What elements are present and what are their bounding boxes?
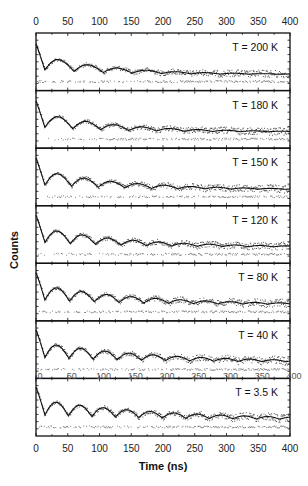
ghost-tick-label: 250 xyxy=(191,371,206,381)
panel-80k: T = 80 K xyxy=(36,263,291,321)
panel-label: T = 40 K xyxy=(238,329,278,341)
bottom-tick-label: 150 xyxy=(123,443,140,454)
panel-label: T = 120 K xyxy=(232,214,278,226)
panel-label: T = 3.5 K xyxy=(235,386,278,398)
ghost-tick-label: 150 xyxy=(128,371,143,381)
panels: T = 200 KT = 180 KT = 150 KT = 120 KT = … xyxy=(36,33,302,436)
panel-40k: T = 40 K xyxy=(36,321,291,379)
bottom-tick-label: 350 xyxy=(250,443,267,454)
residual-points xyxy=(39,426,291,428)
residual-points xyxy=(37,81,290,83)
bottom-tick-label: 300 xyxy=(218,443,235,454)
residual-points xyxy=(37,368,290,370)
top-tick-label: 350 xyxy=(250,16,267,27)
ghost-tick-label: 350 xyxy=(255,371,270,381)
bottom-tick-label: 400 xyxy=(282,443,299,454)
bottom-tick-label: 100 xyxy=(91,443,108,454)
panel-label: T = 80 K xyxy=(238,271,278,283)
ghost-tick-label: 100 xyxy=(96,371,111,381)
ghost-tick-label: 300 xyxy=(223,371,238,381)
x-axis-title: Time (ns) xyxy=(139,460,188,472)
top-tick-label: 300 xyxy=(218,16,235,27)
top-tick-label: 400 xyxy=(282,16,299,27)
top-tick-label: 200 xyxy=(155,16,172,27)
residual-points xyxy=(38,253,291,255)
residual-points xyxy=(48,138,291,140)
ghost-tick-label: 200 xyxy=(159,371,174,381)
residual-points xyxy=(39,311,291,313)
panel-label: T = 200 K xyxy=(232,41,278,53)
figure: 050100150200250300350400 T = 200 KT = 18… xyxy=(0,0,308,486)
bottom-tick-label: 200 xyxy=(155,443,172,454)
top-tick-label: 100 xyxy=(91,16,108,27)
top-tick-label: 0 xyxy=(33,16,39,27)
ghost-tick-label: 0 xyxy=(37,371,42,381)
panel-200k: T = 200 K xyxy=(36,33,291,91)
top-tick-label: 150 xyxy=(123,16,140,27)
bottom-tick-label: 0 xyxy=(33,443,39,454)
panel-120k: T = 120 K xyxy=(36,206,291,264)
panel-180k: T = 180 K xyxy=(36,91,291,149)
bottom-tick-label: 250 xyxy=(186,443,203,454)
residual-points xyxy=(47,196,290,198)
bottom-tick-label: 50 xyxy=(62,443,74,454)
y-axis-title: Counts xyxy=(8,231,20,269)
ghost-tick-label: 50 xyxy=(67,371,77,381)
panel-label: T = 180 K xyxy=(232,99,278,111)
ghost-tick-label: 400 xyxy=(286,371,301,381)
top-x-axis: 050100150200250300350400 xyxy=(33,16,299,27)
panel-150k: T = 150 K xyxy=(36,148,291,206)
panel-label: T = 150 K xyxy=(232,156,278,168)
panel-3_5k: T = 3.5 K xyxy=(36,378,291,436)
top-tick-label: 50 xyxy=(62,16,74,27)
bottom-x-axis: 050100150200250300350400 xyxy=(33,443,299,454)
top-tick-label: 250 xyxy=(186,16,203,27)
